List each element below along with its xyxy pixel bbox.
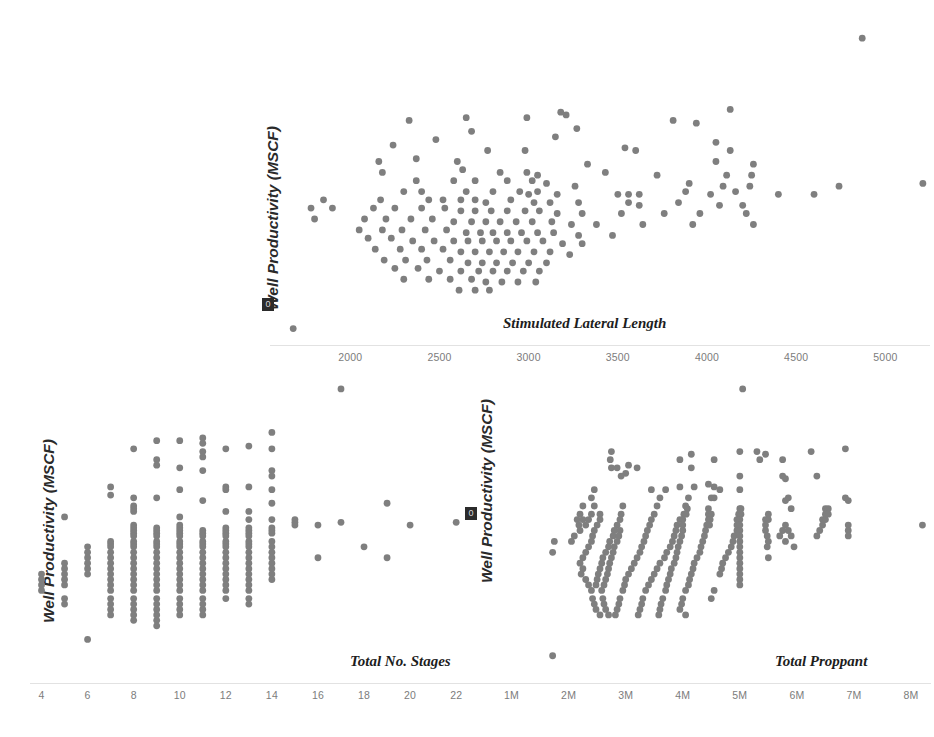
scatter-point bbox=[268, 530, 275, 537]
scatter-point bbox=[635, 612, 642, 619]
scatter-point bbox=[559, 240, 566, 247]
scatter-point bbox=[493, 238, 500, 245]
scatter-svg-top bbox=[270, 30, 930, 345]
scatter-point bbox=[468, 276, 475, 283]
scatter-point bbox=[661, 554, 668, 561]
scatter-point bbox=[532, 279, 539, 286]
scatter-point bbox=[338, 385, 345, 392]
scatter-point bbox=[662, 587, 669, 594]
scatter-point bbox=[315, 522, 322, 529]
scatter-point bbox=[716, 486, 723, 493]
chart-panel-total-no-stages: Well Productivity (MSCF) 0 4681012141618… bbox=[0, 368, 470, 737]
scatter-point bbox=[222, 486, 229, 493]
scatter-point bbox=[222, 587, 229, 594]
scatter-point bbox=[516, 188, 523, 195]
scatter-point bbox=[845, 533, 852, 540]
scatter-point bbox=[415, 265, 422, 272]
scatter-point bbox=[720, 183, 727, 190]
scatter-point bbox=[497, 218, 504, 225]
scatter-point bbox=[409, 238, 416, 245]
scatter-point bbox=[413, 155, 420, 162]
x-tick-label: 14 bbox=[266, 689, 278, 701]
scatter-point bbox=[245, 443, 252, 450]
scatter-point bbox=[573, 125, 580, 132]
scatter-point bbox=[456, 287, 463, 294]
scatter-point bbox=[515, 279, 522, 286]
scatter-point bbox=[107, 587, 114, 594]
scatter-point bbox=[375, 158, 382, 165]
scatter-point bbox=[523, 169, 530, 176]
x-tick-label: 5M bbox=[732, 689, 747, 701]
scatter-point bbox=[762, 451, 769, 458]
x-tick-labels-top: 2000250030003500400045005000 bbox=[270, 351, 930, 367]
scatter-point bbox=[400, 276, 407, 283]
scatter-point bbox=[765, 554, 772, 561]
scatter-point bbox=[486, 248, 493, 255]
scatter-point bbox=[379, 169, 386, 176]
x-tick-label: 18 bbox=[358, 689, 370, 701]
y-tick-zero-bottom-right: 0 bbox=[465, 507, 477, 520]
scatter-point bbox=[625, 199, 632, 206]
scatter-point bbox=[475, 268, 482, 275]
scatter-point bbox=[153, 587, 160, 594]
scatter-point bbox=[222, 508, 229, 515]
scatter-point bbox=[443, 227, 450, 234]
scatter-point bbox=[782, 497, 789, 504]
scatter-point bbox=[618, 210, 625, 217]
scatter-point bbox=[176, 587, 183, 594]
scatter-point bbox=[602, 169, 609, 176]
scatter-point bbox=[525, 259, 532, 266]
scatter-point bbox=[607, 456, 614, 463]
scatter-point bbox=[554, 210, 561, 217]
scatter-point bbox=[549, 652, 556, 659]
scatter-point bbox=[107, 492, 114, 499]
scatter-point bbox=[522, 147, 529, 154]
scatter-point bbox=[199, 454, 206, 461]
scatter-point bbox=[723, 172, 730, 179]
scatter-point bbox=[422, 227, 429, 234]
scatter-point bbox=[543, 259, 550, 266]
scatter-point bbox=[176, 612, 183, 619]
scatter-point bbox=[919, 522, 926, 529]
x-tick-label: 1M bbox=[504, 689, 519, 701]
x-axis-line-bottom-right bbox=[455, 683, 931, 684]
scatter-point bbox=[568, 538, 575, 545]
scatter-point bbox=[268, 576, 275, 583]
scatter-point bbox=[463, 188, 470, 195]
scatter-point bbox=[654, 172, 661, 179]
scatter-point bbox=[811, 191, 818, 198]
scatter-point bbox=[711, 587, 718, 594]
scatter-point bbox=[320, 196, 327, 203]
scatter-point bbox=[639, 221, 646, 228]
scatter-point bbox=[465, 238, 472, 245]
scatter-point bbox=[61, 601, 68, 608]
scatter-point bbox=[662, 486, 669, 493]
scatter-point bbox=[199, 587, 206, 594]
scatter-point bbox=[696, 210, 703, 217]
scatter-point bbox=[391, 265, 398, 272]
scatter-point bbox=[609, 232, 616, 239]
scatter-point bbox=[608, 448, 615, 455]
scatter-point bbox=[523, 238, 530, 245]
scatter-point bbox=[736, 473, 743, 480]
scatter-point bbox=[497, 169, 504, 176]
scatter-point bbox=[329, 205, 336, 212]
scatter-point bbox=[379, 227, 386, 234]
scatter-point bbox=[614, 191, 621, 198]
scatter-point bbox=[388, 235, 395, 242]
scatter-point bbox=[648, 486, 655, 493]
scatter-point bbox=[575, 199, 582, 206]
scatter-point bbox=[484, 147, 491, 154]
chart-panel-total-proppant: Well Productivity (MSCF) 0 1M2M3M4M5M6M7… bbox=[455, 368, 934, 737]
scatter-point bbox=[372, 246, 379, 253]
scatter-point bbox=[507, 238, 514, 245]
scatter-point bbox=[554, 191, 561, 198]
scatter-point bbox=[591, 503, 598, 510]
scatter-point bbox=[529, 218, 536, 225]
scatter-point bbox=[472, 207, 479, 214]
scatter-point bbox=[447, 276, 454, 283]
scatter-point bbox=[676, 606, 683, 613]
scatter-point bbox=[454, 158, 461, 165]
scatter-point bbox=[531, 199, 538, 206]
scatter-point bbox=[413, 177, 420, 184]
